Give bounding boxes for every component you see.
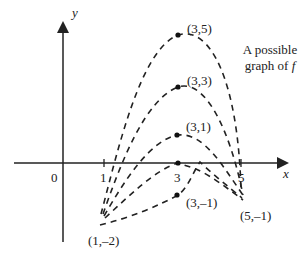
x-axis-label: x [283,167,289,180]
endpoint-label-left: (1,–2) [88,234,119,247]
curve-peak-3-minus1 [100,162,242,225]
endpoint-label-right: (5,–1) [240,209,271,222]
origin-label: 0 [51,171,58,184]
point-3-minus1 [174,192,179,197]
caption-text: graph of [245,58,292,73]
point-3-0 [175,160,180,165]
tick-label-1: 1 [100,171,107,184]
point-3-3 [175,84,180,89]
graph-caption: A possible graph of f [238,42,301,74]
point-label-3-3: (3,3) [187,74,212,87]
y-axis-arrowhead-icon [57,21,69,33]
caption-line-1: A possible [238,42,301,58]
tick-label-5: 5 [238,171,245,184]
point-label-3-5: (3,5) [187,22,212,35]
y-axis-label: y [72,6,78,19]
tick-label-3: 3 [174,171,181,184]
point-3-1 [174,132,179,137]
caption-line-2: graph of f [238,58,301,74]
point-3-5 [175,32,180,37]
curve-peak-3-3 [103,86,243,214]
point-label-3-1: (3,1) [186,120,211,133]
caption-function-name: f [292,58,296,73]
point-label-3-minus1: (3,–1) [186,196,217,209]
function-graph-figure: y x 0 1 3 5 (3,5) (3,3) (3,1) (3,–1) (1,… [0,0,301,266]
graph-canvas [0,0,301,266]
